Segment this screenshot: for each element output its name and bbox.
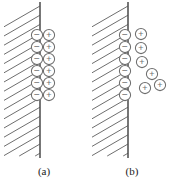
negative-charge-symbol: − — [34, 65, 40, 76]
negative-charge-symbol: − — [34, 29, 40, 40]
panel-b-caption: (b) — [110, 166, 154, 177]
positive-charge: + — [139, 82, 150, 93]
negative-charge: − — [119, 41, 130, 53]
negative-charge-symbol: − — [122, 89, 128, 100]
positive-charge: + — [135, 28, 146, 39]
positive-charge: + — [43, 53, 54, 64]
positive-charge-symbol: + — [142, 83, 147, 93]
negative-charge: − — [31, 29, 42, 41]
positive-charge: + — [43, 65, 54, 76]
positive-charge-symbol: + — [138, 43, 143, 53]
positive-charge-symbol: + — [139, 57, 144, 67]
negative-charge-symbol: − — [122, 53, 128, 64]
positive-charge: + — [43, 77, 54, 88]
negative-charge: − — [119, 65, 130, 77]
positive-charge: + — [146, 68, 157, 79]
positive-charge: + — [135, 42, 146, 53]
negative-charge-symbol: − — [122, 77, 128, 88]
positive-charge-symbol: + — [157, 80, 162, 90]
negative-charge: − — [119, 53, 130, 65]
negative-charge: − — [119, 29, 130, 41]
positive-charge-symbol: + — [46, 42, 51, 52]
positive-charge: + — [136, 56, 147, 67]
negative-charge: − — [119, 77, 130, 89]
negative-charge-symbol: − — [34, 77, 40, 88]
negative-charge-symbol: − — [34, 41, 40, 52]
negative-charge-symbol: − — [122, 41, 128, 52]
positive-charge-symbol: + — [149, 69, 154, 79]
negative-charge-symbol: − — [122, 29, 128, 40]
figure-root: −−−−−−++++++ −−−−−−++++++ (a) (b) — [0, 0, 177, 185]
negative-charge: − — [31, 65, 42, 77]
positive-charge: + — [43, 89, 54, 100]
positive-charge: + — [43, 29, 54, 40]
negative-charge: − — [31, 53, 42, 65]
positive-charge-symbol: + — [46, 66, 51, 76]
negative-charge-symbol: − — [34, 53, 40, 64]
positive-charge: + — [154, 79, 165, 90]
figure-background — [0, 0, 177, 185]
negative-charge-symbol: − — [34, 89, 40, 100]
positive-charge-symbol: + — [46, 78, 51, 88]
double-layer-figure: −−−−−−++++++ −−−−−−++++++ — [0, 0, 177, 185]
positive-charge-symbol: + — [138, 29, 143, 39]
positive-charge: + — [43, 41, 54, 52]
positive-charge-symbol: + — [46, 90, 51, 100]
panel-a-caption: (a) — [22, 166, 66, 177]
negative-charge-symbol: − — [122, 65, 128, 76]
positive-charge-symbol: + — [46, 30, 51, 40]
negative-charge: − — [31, 41, 42, 53]
negative-charge: − — [31, 89, 42, 101]
positive-charge-symbol: + — [46, 54, 51, 64]
negative-charge: − — [31, 77, 42, 89]
negative-charge: − — [119, 89, 130, 101]
